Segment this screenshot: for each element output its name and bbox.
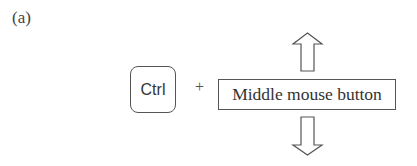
down-arrow-icon (293, 117, 322, 155)
up-arrow-icon (293, 33, 322, 71)
arrows-layer (0, 0, 417, 166)
diagram-canvas: (a) Ctrl + Middle mouse button (0, 0, 417, 166)
